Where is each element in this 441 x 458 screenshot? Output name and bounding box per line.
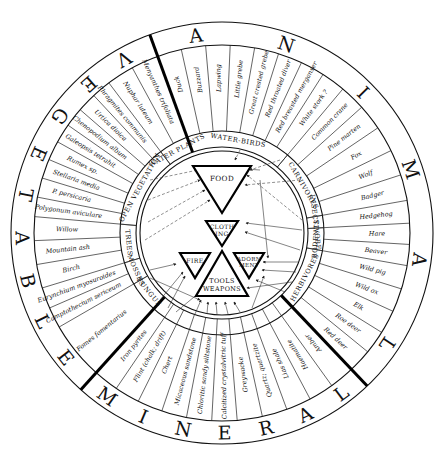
- kingdom-letter: B: [16, 271, 41, 290]
- kingdom-letter: M: [93, 382, 122, 411]
- item-label-mineral: Greywacke: [237, 356, 250, 393]
- kingdom-letter: A: [11, 230, 33, 246]
- item-label: Fox: [348, 149, 363, 162]
- item-label: Duck: [172, 75, 185, 94]
- item-label-mineral: Chert: [160, 355, 175, 375]
- category-label: TREES: [123, 229, 134, 256]
- item-label-mineral: Micaceous sandstone: [172, 336, 198, 406]
- tools-label: TOOLS: [209, 277, 234, 285]
- item-label: Elk: [351, 300, 365, 313]
- item-label-mineral: Lias shale: [270, 347, 291, 381]
- kingdom-letter: G: [47, 104, 74, 129]
- category-label: RODENTS: [311, 219, 321, 259]
- clothing-label-line1: CLOTH: [210, 223, 235, 230]
- item-label: Pine marten: [325, 122, 362, 153]
- kingdom-letter: E: [218, 421, 232, 443]
- item-label: Red deer: [321, 325, 349, 352]
- item-label: Little grebe: [233, 59, 245, 99]
- adornment-label-line2: MENT: [239, 262, 259, 268]
- item-label-mineral: Chloritic sandy siltstone: [196, 335, 214, 414]
- item-label: Hedgehog: [358, 210, 393, 222]
- item-label-mineral: Calcitized crystalvitric tuff: [219, 331, 228, 419]
- category-divider: [120, 224, 136, 225]
- kingdom-letter: N: [173, 416, 194, 441]
- item-label: Lapwing: [214, 64, 223, 93]
- category-label: HERBIVORES: [289, 252, 321, 303]
- weapons-label: WEAPONS: [203, 285, 241, 293]
- food-triangle: FOOD: [193, 166, 251, 213]
- item-label: Hare: [368, 230, 385, 238]
- item-divider: [34, 237, 120, 241]
- item-label: Mountain ash: [44, 243, 90, 256]
- kingdom-letter: L: [329, 380, 353, 405]
- item-divider: [206, 46, 213, 132]
- item-label: Buzzard: [192, 66, 204, 94]
- item-label: Willow: [56, 225, 79, 234]
- clothing-triangle: CLOTH ING: [206, 221, 238, 246]
- item-label: Roe deer: [333, 311, 363, 336]
- kingdom-letter: T: [14, 187, 38, 204]
- kingdom-letter: A: [187, 23, 205, 47]
- item-label: Wild pig: [359, 263, 387, 277]
- item-label: P. persicaria: [50, 187, 92, 205]
- item-divider: [324, 223, 410, 228]
- item-label: Wild ox: [354, 280, 380, 296]
- clothing-label-line2: ING: [215, 230, 229, 237]
- item-divider: [35, 217, 121, 224]
- category-divider: [277, 155, 287, 167]
- resource-wheel-diagram: VEGETABLEANIMALMINERAL WATER-BIRDSCARNIV…: [0, 0, 441, 458]
- fire-label: FIRE: [186, 257, 204, 264]
- fire-triangle: FIRE: [180, 253, 210, 278]
- item-label: Wolf: [358, 168, 376, 181]
- use-triangles: FOOD CLOTH ING FIRE ADORN MENT TOOLS WEA…: [180, 166, 264, 296]
- item-label: Beaver: [363, 246, 388, 257]
- item-divider: [324, 239, 410, 244]
- kingdom-letter: E: [76, 72, 101, 98]
- kingdom-letter: A: [408, 250, 432, 268]
- item-divider: [226, 45, 230, 131]
- adornment-triangle: ADORN MENT: [234, 253, 264, 278]
- item-label: Badger: [359, 189, 386, 203]
- item-label: Birch: [61, 263, 81, 275]
- kingdom-letter: I: [353, 82, 374, 103]
- kingdom-letter: R: [257, 415, 276, 440]
- kingdom-letter: I: [136, 405, 152, 428]
- food-label: FOOD: [210, 174, 234, 183]
